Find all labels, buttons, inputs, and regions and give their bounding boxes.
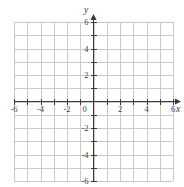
coordinate-plane: -6-4-20246 642-2-4-6 x y bbox=[0, 0, 184, 187]
y-axis-label: y bbox=[83, 5, 89, 15]
x-tick-label: -4 bbox=[37, 104, 45, 114]
x-tick-label: -2 bbox=[63, 104, 70, 114]
x-tick-label: 0 bbox=[82, 104, 86, 114]
y-tick-label: 2 bbox=[84, 70, 88, 80]
x-axis-label: x bbox=[175, 104, 181, 114]
x-tick-label: 2 bbox=[118, 104, 122, 114]
x-tick-label: -6 bbox=[10, 104, 17, 114]
coordinate-grid-figure: -6-4-20246 642-2-4-6 x y bbox=[0, 0, 184, 187]
y-tick-label: 6 bbox=[84, 17, 88, 27]
y-tick-label: -2 bbox=[81, 123, 88, 133]
y-tick-label: -4 bbox=[81, 150, 89, 160]
x-tick-label: 6 bbox=[171, 104, 175, 114]
y-tick-label: -6 bbox=[81, 176, 88, 186]
